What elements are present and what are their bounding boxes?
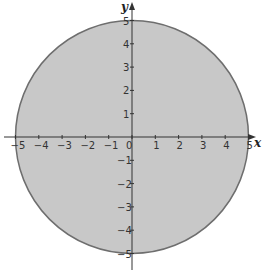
disk-chart: −5−4−3−2−1012345 −5−4−3−2−112345 x y [0, 0, 267, 275]
x-tick-label: −5 [11, 140, 26, 151]
y-axis-label: y [120, 0, 129, 14]
y-tick-label: 3 [123, 62, 129, 73]
x-tick-label: 5 [247, 140, 253, 151]
x-axis-label: x [253, 136, 262, 150]
x-tick-label: 2 [177, 140, 183, 151]
x-tick-label: 1 [153, 140, 159, 151]
y-tick-label: −4 [117, 225, 132, 236]
x-tick-label: −2 [80, 140, 95, 151]
y-tick-label: 1 [123, 109, 129, 120]
x-tick-label: 0 [126, 140, 132, 151]
y-tick-label: 4 [123, 39, 129, 50]
x-tick-label: 3 [200, 140, 206, 151]
y-tick-label: −5 [117, 249, 132, 260]
y-tick-label: 5 [123, 16, 129, 27]
x-tick-label: −1 [104, 140, 119, 151]
x-tick-label: −3 [57, 140, 72, 151]
y-tick-label: −3 [117, 202, 132, 213]
y-tick-label: 2 [123, 85, 129, 96]
x-tick-label: 4 [223, 140, 229, 151]
y-axis-arrow-icon [129, 2, 135, 10]
x-tick-label: −4 [34, 140, 49, 151]
y-tick-label: −1 [117, 155, 132, 166]
y-tick-label: −2 [117, 179, 132, 190]
